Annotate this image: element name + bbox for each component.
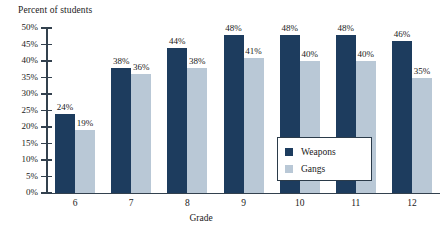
y-axis-tick [41,77,52,78]
y-axis-tick-label-wrap: 40% [8,55,38,67]
y-axis-tick [41,27,52,28]
y-axis-tick-label-wrap: 35% [8,72,38,84]
legend-item-weapons[interactable]: Weapons [285,145,336,159]
y-axis-tick-label: 35% [8,72,38,82]
y-axis-tick-label-wrap: 45% [8,39,38,51]
y-axis-tick-label: 20% [8,121,38,131]
bar-value-label-gangs-grade-11: 40% [351,49,381,59]
y-axis-tick-label-wrap: 10% [8,154,38,166]
x-axis-tick-label-6: 6 [55,198,95,208]
y-axis-tick-label-wrap: 25% [8,105,38,117]
bar-value-label-gangs-grade-12: 35% [407,66,437,76]
bar-value-label-weapons-grade-12: 46% [387,29,417,39]
legend-swatch-weapons [285,148,293,156]
grouped-bar-chart: Percent of students 50%45%40%35%30%25%20… [0,0,444,241]
bar-value-label-weapons-grade-9: 48% [219,23,249,33]
bar-value-label-gangs-grade-10: 40% [295,49,325,59]
bar-value-label-weapons-grade-6: 24% [50,102,80,112]
y-axis-tick-label-wrap: 50% [8,22,38,34]
x-axis-tick-label-8: 8 [167,198,207,208]
bar-value-label-gangs-grade-6: 19% [70,118,100,128]
bar-value-label-gangs-grade-8: 38% [182,56,212,66]
y-axis-tick-label: 5% [8,171,38,181]
x-axis-tick-label-10: 10 [280,198,320,208]
bar-value-label-weapons-grade-8: 44% [162,36,192,46]
y-axis-tick-label-wrap: 0% [8,187,38,199]
y-axis-tick-label-wrap: 15% [8,138,38,150]
y-axis-tick-label: 15% [8,138,38,148]
legend-swatch-gangs [285,165,293,173]
bar-value-label-weapons-grade-11: 48% [331,23,361,33]
x-axis-title: Grade [0,213,423,223]
y-axis-title: Percent of students [18,5,92,15]
x-axis-tick-label-11: 11 [336,198,376,208]
y-axis-tick [41,93,52,94]
legend-label-gangs: Gangs [301,164,325,174]
chart-legend: Weapons Gangs [277,137,372,181]
y-axis-tick-label: 40% [8,55,38,65]
y-axis-tick [41,44,52,45]
y-axis-tick-label: 0% [8,187,38,197]
y-axis-tick-label: 25% [8,105,38,115]
bar-weapons-grade-12[interactable] [392,41,412,193]
y-axis-tick [41,126,52,127]
y-axis-tick-label-wrap: 30% [8,88,38,100]
y-axis-tick [41,176,52,177]
bar-value-label-gangs-grade-9: 41% [239,46,269,56]
y-axis-tick [41,192,52,193]
bar-gangs-grade-9[interactable] [244,58,264,193]
x-axis-tick-label-9: 9 [224,198,264,208]
y-axis-tick [41,60,52,61]
y-axis-tick [41,159,52,160]
y-axis-tick-label: 30% [8,88,38,98]
legend-label-weapons: Weapons [301,147,336,157]
x-axis-tick-label-7: 7 [111,198,151,208]
y-axis-tick-label: 50% [8,22,38,32]
bar-weapons-grade-7[interactable] [111,68,131,193]
bar-weapons-grade-8[interactable] [167,48,187,193]
bar-gangs-grade-7[interactable] [131,74,151,193]
bar-value-label-gangs-grade-7: 36% [126,62,156,72]
legend-item-gangs[interactable]: Gangs [285,162,325,176]
y-axis-tick-label-wrap: 5% [8,171,38,183]
bar-value-label-weapons-grade-10: 48% [275,23,305,33]
y-axis-tick-label: 45% [8,39,38,49]
y-axis-tick-label: 10% [8,154,38,164]
bar-weapons-grade-9[interactable] [224,35,244,193]
x-axis-tick-label-12: 12 [392,198,432,208]
bar-gangs-grade-8[interactable] [187,68,207,193]
bar-gangs-grade-12[interactable] [412,78,432,194]
y-axis-tick [41,143,52,144]
bar-gangs-grade-6[interactable] [75,130,95,193]
y-axis-tick-label-wrap: 20% [8,121,38,133]
